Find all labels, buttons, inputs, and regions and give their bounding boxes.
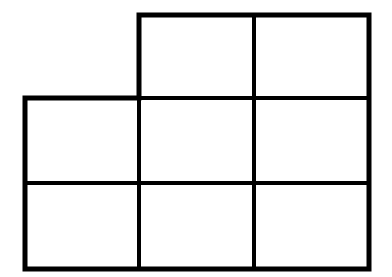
outer-outline xyxy=(25,15,369,269)
grid-diagram xyxy=(0,0,392,277)
